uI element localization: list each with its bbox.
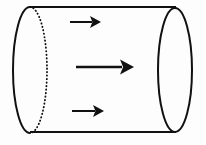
cylinder-left-cap-front-arc: [13, 7, 30, 133]
flow-arrow-middle-head: [120, 60, 134, 75]
flow-arrow-middle: [76, 60, 134, 75]
cylinder-left-cap-back-arc: [30, 7, 47, 133]
flow-arrow-top: [70, 16, 101, 28]
cylinder-right-cap: [158, 8, 192, 132]
figure-container: [0, 0, 206, 145]
flow-arrow-bottom: [72, 105, 104, 117]
cylinder-flow-diagram: [0, 0, 206, 145]
